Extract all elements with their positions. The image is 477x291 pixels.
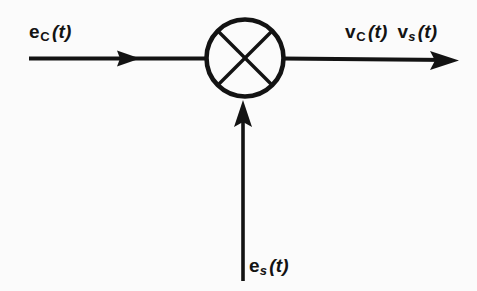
label-es-base: e (249, 255, 260, 276)
label-ec-subscript: C (40, 29, 50, 44)
label-vc-subscript: C (356, 29, 366, 44)
label-input-ec: eC(t) (29, 22, 71, 43)
label-vc-argument: (t) (366, 21, 388, 42)
right-output-line (282, 59, 448, 61)
label-input-es: es(t) (249, 256, 289, 277)
mixer-diagram: eC(t) vC(t)vs(t) es(t) (0, 0, 477, 291)
diagram-canvas (0, 0, 477, 291)
label-es-argument: (t) (267, 255, 289, 276)
label-ec-base: e (29, 21, 40, 42)
label-vc-base: v (345, 21, 356, 42)
label-vs-base: v (397, 21, 408, 42)
label-vs-subscript: s (408, 29, 415, 44)
label-output-v: vC(t)vs(t) (345, 22, 437, 43)
label-ec-argument: (t) (50, 21, 72, 42)
label-vs-argument: (t) (416, 21, 438, 42)
left-input-arrowhead (117, 51, 140, 67)
